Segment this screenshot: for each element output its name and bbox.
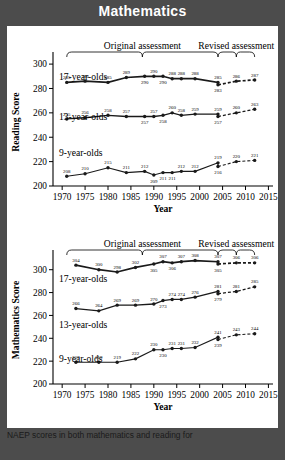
data-point-label: 276 [191,290,199,295]
figure-caption: NAEP scores in both mathematics and read… [7,430,278,441]
x-tick-label: 2000 [190,390,209,400]
series-label-0: 17-year-olds [59,71,108,82]
data-point-label: 279 [214,297,222,302]
data-point-label: 288 [178,71,186,76]
x-tick-label: 2005 [213,192,232,202]
data-point [97,268,100,271]
brace-label: Revised assessment [198,238,274,249]
data-point-label: 288 [191,71,199,76]
data-point-label: 231 [178,341,186,346]
data-point-label: 259 [191,107,199,112]
data-point-label: 244 [251,326,259,331]
data-point-label: 305 [214,268,222,273]
data-point-label: 208 [63,169,71,174]
x-tick-label: 1995 [167,192,186,202]
data-point [161,75,164,78]
data-point [216,338,219,341]
x-tick-label: 1995 [167,390,186,400]
y-axis-title: Reading Score [10,92,21,152]
data-point [125,115,128,118]
x-tick-label: 1990 [145,390,164,400]
data-point-label: 302 [132,260,140,265]
data-point-label: 274 [178,292,186,297]
data-point [152,173,155,176]
data-point-label: 288 [168,71,176,76]
data-point-label: 220 [233,154,241,159]
chart-reading: 2002202402602803001970197519801985199019… [7,28,278,228]
data-point-label: 210 [81,166,89,171]
data-point-label: 257 [123,109,131,114]
data-point [106,166,109,169]
data-point-label: 307 [214,254,222,259]
data-point [216,115,219,118]
data-point [235,111,238,114]
data-point [134,303,137,306]
data-point [152,115,155,118]
data-point [193,77,196,80]
data-point [253,159,256,162]
data-point [216,262,219,265]
data-point-label: 283 [214,88,222,93]
y-tick-label: 300 [33,59,47,69]
series-label-2: 9-year-olds [59,147,103,158]
data-point [74,307,77,310]
chart-svg-mathematics: 2002202402602803001970197519801985199019… [7,226,278,426]
data-point [253,332,256,335]
data-point [170,111,173,114]
data-point-label: 290 [150,69,158,74]
data-point-label: 269 [132,298,140,303]
data-point-label: 260 [233,105,241,110]
y-tick-label: 300 [33,265,47,275]
data-point-label: 269 [113,298,121,303]
data-point-label: 219 [113,355,121,360]
data-point-label: 212 [191,164,199,169]
data-point [216,161,219,164]
y-tick-label: 260 [33,311,47,321]
data-point [143,170,146,173]
data-point [180,77,183,80]
data-point [143,75,146,78]
data-point-label: 264 [95,303,103,308]
chart-svg-reading: 2002202402602803001970197519801985199019… [7,28,278,228]
data-point [170,347,173,350]
x-tick-label: 2010 [236,390,255,400]
x-tick-label: 1975 [76,192,95,202]
data-point [170,261,173,264]
data-point-label: 274 [168,292,176,297]
brace-label: Original assessment [104,238,181,249]
data-point [180,170,183,173]
data-point-label: 216 [214,170,222,175]
x-tick-label: 2005 [213,390,232,400]
data-point-label: 281 [214,284,222,289]
data-point-label: 230 [159,353,167,358]
data-point-label: 306 [233,255,241,260]
data-point [180,298,183,301]
data-point [115,303,118,306]
data-point-label: 257 [214,120,222,125]
data-point [161,114,164,117]
page-title: Mathematics [0,3,285,19]
data-point [152,302,155,305]
data-point [152,262,155,265]
data-point-label: 285 [214,75,222,80]
data-point [235,79,238,82]
data-point-label: 231 [168,341,176,346]
data-point [115,361,118,364]
x-tick-label: 1970 [53,390,72,400]
y-tick-label: 220 [33,157,47,167]
x-axis-title: Year [153,401,173,412]
data-point [170,171,173,174]
data-point-label: 258 [159,119,167,124]
y-tick-label: 240 [33,334,47,344]
data-point-label: 259 [214,107,222,112]
data-point [97,309,100,312]
data-point-label: 307 [159,254,167,259]
data-point [125,76,128,79]
data-point-label: 258 [178,108,186,113]
data-point [170,77,173,80]
data-point-label: 298 [113,265,121,270]
data-point [161,299,164,302]
data-point [193,346,196,349]
data-point [83,172,86,175]
data-point-label: 241 [214,330,222,335]
